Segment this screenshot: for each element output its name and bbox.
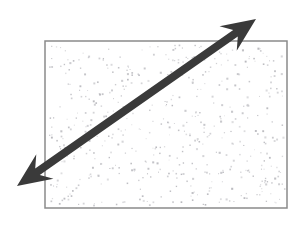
stippled-rectangle-fill [45,41,287,208]
figure-canvas [0,0,302,225]
figure-svg [0,0,302,225]
